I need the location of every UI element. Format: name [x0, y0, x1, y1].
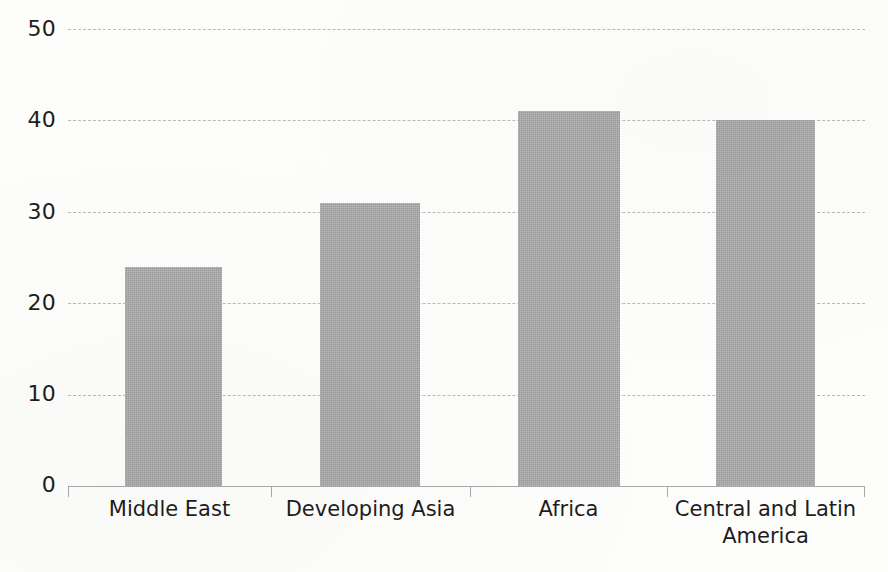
- bar-developing-asia: [320, 203, 420, 486]
- x-tick-label-central-latin-america-line1: Central and Latin: [675, 497, 856, 521]
- y-tick-label-0: 0: [0, 474, 56, 496]
- y-tick-label-30: 30: [0, 201, 56, 223]
- x-tick-label-central-latin-america: Central and Latin America: [667, 496, 864, 550]
- y-tick-label-40: 40: [0, 109, 56, 131]
- x-tick-label-middle-east: Middle East: [68, 496, 271, 523]
- y-tick-label-50: 50: [0, 18, 56, 40]
- gridline-50: [68, 29, 865, 30]
- x-tick-label-central-latin-america-line2: America: [722, 524, 809, 548]
- bar-central-latin-america: [716, 120, 815, 486]
- bar-chart: 50 40 30 20 10 0 Middle East Developing …: [0, 0, 888, 572]
- y-tick-label-10: 10: [0, 383, 56, 405]
- y-axis: 50 40 30 20 10 0: [0, 0, 56, 572]
- y-tick-label-20: 20: [0, 292, 56, 314]
- axis-baseline: [68, 486, 865, 487]
- x-tick-label-africa: Africa: [470, 496, 667, 523]
- x-tick-label-developing-asia: Developing Asia: [271, 496, 470, 523]
- bar-africa: [518, 111, 620, 486]
- plot-area: [68, 29, 865, 486]
- x-axis-tick-end: [864, 486, 865, 497]
- bar-middle-east: [125, 267, 222, 486]
